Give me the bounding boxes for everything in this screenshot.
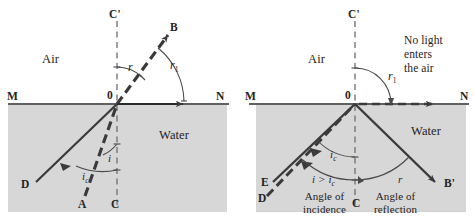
reflection-caption-right: Angle ofreflection (374, 190, 417, 217)
angle-ic-sub: c (85, 176, 88, 185)
origin-label-left: 0 (107, 89, 113, 103)
point-e-label-right: E (261, 176, 269, 190)
origin-label-right: 0 (345, 89, 351, 103)
point-d-label-right: D (258, 192, 266, 206)
angle-i-label-left: i (108, 152, 111, 165)
surface-left-label-left: M (7, 90, 18, 104)
reflection-caption-line-2: reflection (374, 203, 417, 215)
water-region-right (256, 105, 466, 212)
angle-r1-sub-right: 1 (393, 76, 397, 85)
incidence-caption-line-2: incidence (303, 203, 346, 215)
normal-bottom-label-left: C (111, 198, 119, 212)
incidence-condition-base: i > i (312, 173, 332, 185)
incidence-condition-sub: c (332, 179, 335, 188)
medium-water-label-right: Water (411, 124, 441, 139)
angle-ic-sub-right: c (333, 154, 336, 163)
medium-air-label-right: Air (308, 52, 325, 67)
angle-r-label-right: r (398, 173, 402, 186)
reflection-caption-line-1: Angle of (376, 190, 416, 202)
arc-angle-r1-right (355, 68, 391, 104)
normal-top-label-right: C' (348, 8, 360, 22)
refracted-ray-b-left (117, 35, 168, 104)
point-b-label-left: B (170, 21, 178, 35)
point-b-prime-label-right: B' (444, 177, 455, 191)
no-light-note-right: No lightentersthe air (404, 33, 443, 75)
water-region-bottom-edge-right (256, 211, 466, 212)
surface-right-label-left: N (216, 90, 224, 104)
left-panel-graphics (0, 0, 237, 220)
incidence-caption-line-1: Angle of (305, 190, 345, 202)
surface-left-label-right: M (245, 90, 256, 104)
figure-canvas: C' B Air r r1 M 0 N Water i ic D A C (0, 0, 474, 220)
no-light-line-1: No light (404, 34, 443, 46)
surface-right-label-right: N (460, 90, 468, 104)
angle-r1-label-right: r1 (388, 69, 397, 86)
angle-r-label-left: r (128, 60, 133, 74)
angle-ic-label-left: ic (82, 170, 89, 186)
angle-r1-sub: 1 (175, 65, 179, 74)
medium-water-label-left: Water (159, 128, 189, 143)
medium-air-label-left: Air (42, 52, 59, 67)
normal-top-label-left: C' (109, 8, 121, 22)
no-light-line-2: enters (404, 48, 432, 60)
point-a-label-left: A (78, 198, 86, 212)
no-light-line-3: the air (404, 62, 434, 74)
arc-r-tick-end-left (139, 74, 145, 80)
incidence-condition-right: i > ic (312, 173, 335, 189)
point-d-label-left: D (21, 178, 29, 192)
normal-bottom-label-right: C (352, 197, 360, 211)
angle-ic-label-right: ic (330, 148, 337, 164)
angle-r1-label-left: r1 (170, 58, 179, 75)
incidence-caption-right: Angle ofincidence (303, 190, 346, 217)
